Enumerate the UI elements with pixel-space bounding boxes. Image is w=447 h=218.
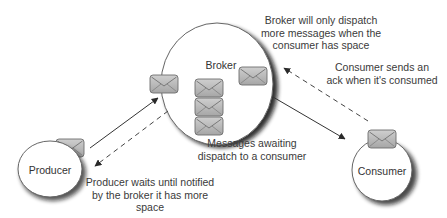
broker-dispatch-note: Broker will only dispatch more messages …: [256, 14, 386, 52]
messages-waiting-note-line: dispatch to a consumer: [196, 150, 308, 163]
producer-to-broker-arrow: [90, 98, 158, 148]
envelope-icon: [368, 130, 396, 148]
producer-wait-note: Producer waits until notified by the bro…: [82, 176, 218, 214]
broker-dispatch-note-line: Broker will only dispatch: [256, 14, 386, 27]
producer-wait-note-line: space: [82, 201, 218, 214]
messages-waiting-note-line: Messages awaiting: [196, 137, 308, 150]
consumer-label: Consumer: [352, 165, 412, 177]
broker-to-consumer-arrow: [273, 97, 345, 139]
broker-to-producer-dashed-arrow: [95, 111, 168, 166]
consumer-ack-note-line: Consumer sends an: [322, 61, 442, 74]
producer-label: Producer: [22, 164, 78, 176]
broker-label: Broker: [196, 59, 246, 71]
consumer-ack-note: Consumer sends an ack when it's consumed: [322, 61, 442, 86]
broker-dispatch-note-line: consumer has space: [256, 39, 386, 52]
envelope-icon: [195, 117, 223, 135]
consumer-ack-note-line: ack when it's consumed: [322, 74, 442, 87]
producer-wait-note-line: by the broker it has more: [82, 189, 218, 202]
envelope-icon: [195, 79, 223, 97]
envelope-icon: [195, 98, 223, 116]
envelope-icon: [150, 75, 178, 93]
messages-waiting-note: Messages awaiting dispatch to a consumer: [196, 137, 308, 162]
broker-dispatch-note-line: more messages when the: [256, 27, 386, 40]
producer-wait-note-line: Producer waits until notified: [82, 176, 218, 189]
